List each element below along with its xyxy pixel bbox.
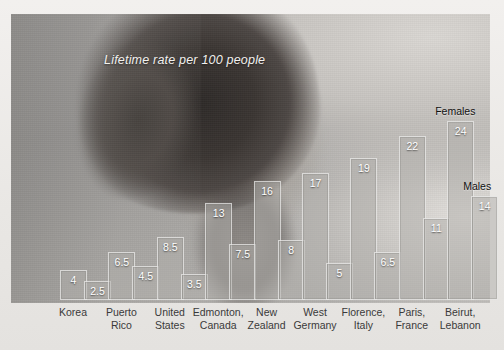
bar-value-label: 8.5: [158, 241, 183, 253]
bar-value-label: 4.5: [133, 270, 158, 282]
bar-females: 4: [60, 270, 87, 300]
bar-value-label: 11: [424, 222, 449, 234]
bar-value-label: 6.5: [109, 256, 134, 268]
bar-value-label: 19: [351, 162, 376, 174]
bar-females: 6.5: [108, 252, 135, 300]
bar-value-label: 22: [400, 140, 425, 152]
bar-males: 14: [471, 196, 498, 300]
bar-females: 24: [447, 121, 474, 300]
bar-value-label: 24: [448, 125, 473, 137]
bar-value-label: 7.5: [230, 248, 255, 260]
bar-value-label: 4: [61, 274, 86, 286]
bar-value-label: 14: [472, 200, 497, 212]
bar-value-label: 17: [303, 177, 328, 189]
bar-females: 19: [350, 158, 377, 300]
chart-canvas: Lifetime rate per 100 people 42.56.54.58…: [0, 0, 504, 350]
category-axis-labels: KoreaPuertoRicoUnitedStatesEdmonton,Cana…: [11, 306, 490, 346]
bar-males: 4.5: [132, 266, 159, 300]
bar-value-label: 16: [255, 185, 280, 197]
bar-value-label: 8: [279, 244, 304, 256]
bar-females: 16: [254, 181, 281, 300]
bar-females: 13: [205, 203, 232, 300]
bar-males: 7.5: [229, 244, 256, 300]
category-label-line: Beirut,: [428, 306, 492, 319]
bar-males: 11: [423, 218, 450, 300]
bar-females: 8.5: [157, 237, 184, 300]
bar-females: 22: [399, 136, 426, 300]
bar-males: 5: [326, 263, 353, 300]
bar-value-label: 6.5: [375, 256, 400, 268]
category-label-line: Lebanon: [428, 319, 492, 332]
bar-value-label: 5: [327, 267, 352, 279]
bar-males: 2.5: [84, 281, 111, 300]
bar-females: 17: [302, 173, 329, 300]
category-label: Beirut,Lebanon: [428, 306, 492, 331]
bar-value-label: 2.5: [85, 285, 110, 297]
bar-value-label: 3.5: [182, 278, 207, 290]
bar-males: 8: [278, 240, 305, 300]
plot-area: 42.56.54.58.53.5137.5168175196.522112414…: [11, 14, 490, 303]
annotation-males: Males: [463, 180, 491, 192]
bar-males: 6.5: [374, 252, 401, 300]
bar-value-label: 13: [206, 207, 231, 219]
annotation-females: Females: [435, 105, 475, 117]
bar-males: 3.5: [181, 274, 208, 300]
